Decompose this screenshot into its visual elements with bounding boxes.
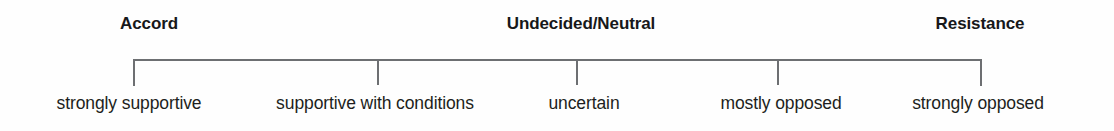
category-heading-undecided-neutral: Undecided/Neutral (507, 13, 656, 35)
scale-tick-1 (133, 59, 135, 86)
scale-point-label-strongly-opposed: strongly opposed (912, 91, 1044, 115)
scale-tick-4 (777, 59, 779, 85)
scale-axis-line (134, 59, 981, 61)
scale-tick-5 (980, 59, 982, 86)
scale-point-label-mostly-opposed: mostly opposed (720, 91, 841, 115)
scale-point-label-strongly-supportive: strongly supportive (57, 91, 202, 115)
category-heading-accord: Accord (120, 13, 178, 35)
scale-point-label-supportive-with-conditions: supportive with conditions (276, 91, 474, 115)
scale-diagram: Accord Undecided/Neutral Resistance stro… (0, 0, 1114, 131)
scale-tick-2 (377, 59, 379, 85)
category-heading-resistance: Resistance (936, 13, 1025, 35)
scale-tick-3 (576, 59, 578, 85)
scale-point-label-uncertain: uncertain (548, 91, 619, 115)
